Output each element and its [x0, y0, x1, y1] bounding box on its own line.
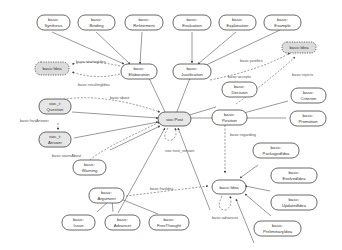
svg-text:Promotion: Promotion	[298, 119, 318, 124]
svg-text:basic:: basic:	[73, 217, 84, 222]
svg-text:Warning: Warning	[82, 168, 98, 173]
svg-text:basic:Idea: basic:Idea	[219, 185, 239, 190]
svg-text:basic:: basic:	[272, 223, 283, 228]
svg-text:basic:: basic:	[289, 197, 300, 202]
svg-text:PackagedIdea: PackagedIdea	[263, 151, 290, 156]
node-example: basic: Example	[264, 15, 301, 30]
node-post: sioc:Post	[158, 112, 191, 126]
node-answer: sioc_t: Answer	[39, 132, 71, 147]
node-idea-bottom: basic:Idea	[212, 180, 246, 194]
svg-text:Criterion: Criterion	[301, 96, 317, 101]
svg-text:basic:: basic:	[48, 17, 59, 22]
svg-text:basic:: basic:	[187, 17, 198, 22]
label-accepts: basic:accepts	[228, 75, 251, 79]
label-justifies: basic:justifies	[240, 59, 263, 63]
node-advancer: basic: Advancer	[105, 215, 140, 230]
svg-text:Refinement: Refinement	[133, 23, 155, 28]
svg-text:basic:: basic:	[303, 113, 314, 118]
svg-text:Issue: Issue	[73, 223, 84, 228]
svg-text:Evaluation: Evaluation	[182, 23, 202, 28]
node-issue: basic: Issue	[62, 215, 95, 230]
node-explanation: basic: Explanation	[219, 15, 256, 30]
svg-text:basic:Idea: basic:Idea	[42, 66, 62, 71]
node-argument: basic: Argument	[89, 188, 124, 203]
label-nextversion: sioc:next_version	[165, 149, 194, 153]
svg-text:basic:: basic:	[271, 145, 282, 150]
nodes: basic: Synthesis basic: Binding basic: R…	[35, 15, 326, 236]
node-warning: basic: Warning	[73, 160, 106, 175]
svg-text:sioc:Post: sioc:Post	[166, 117, 184, 122]
ontology-diagram: basic:startingIdea basic:resultingIdea b…	[0, 0, 342, 250]
node-question: sioc_t: Question	[39, 99, 71, 114]
svg-text:Binding: Binding	[90, 23, 105, 28]
label-advances: basic:advances	[212, 216, 238, 220]
svg-text:basic:: basic:	[117, 217, 128, 222]
svg-text:sioc_t:: sioc_t:	[49, 101, 61, 106]
label-resulting: basic:resultingIdea	[78, 83, 111, 87]
node-binding: basic: Binding	[78, 15, 115, 30]
svg-text:basic:: basic:	[277, 17, 288, 22]
label-regarding: basic:regarding	[230, 133, 256, 137]
label-starting: basic:startingIdea	[76, 60, 107, 64]
svg-text:basic:: basic:	[224, 112, 235, 117]
svg-text:FreeThought: FreeThought	[157, 223, 182, 228]
svg-text:basic:Idea: basic:Idea	[289, 45, 309, 50]
svg-text:Decision: Decision	[231, 90, 248, 95]
label-hasanswer: basic:hasAnswer	[20, 119, 49, 123]
svg-text:basic:: basic:	[303, 90, 314, 95]
svg-text:Position: Position	[222, 118, 238, 123]
svg-text:PreliminaryIdea: PreliminaryIdea	[263, 229, 293, 234]
node-idea-left: basic:Idea	[35, 62, 69, 75]
svg-text:Question: Question	[47, 107, 64, 112]
node-promotion: basic: Promotion	[290, 111, 326, 126]
svg-text:Answer: Answer	[48, 140, 63, 145]
node-criterion: basic: Criterion	[291, 88, 326, 103]
node-freethought: basic: FreeThought	[149, 215, 189, 230]
label-about: basic:about	[110, 96, 130, 100]
label-rejects: basic:rejects	[292, 73, 313, 77]
svg-text:Elaboration: Elaboration	[128, 72, 150, 77]
node-idea-top-right: basic:Idea	[282, 42, 316, 53]
svg-text:basic:: basic:	[134, 66, 145, 71]
svg-text:basic:: basic:	[91, 17, 102, 22]
node-elaboration: basic: Elaboration	[121, 64, 157, 79]
node-synthesis: basic: Synthesis	[37, 15, 70, 30]
svg-text:basic:: basic:	[84, 162, 95, 167]
svg-text:basic:: basic:	[101, 190, 112, 195]
svg-text:basic:: basic:	[234, 84, 245, 89]
label-startsabout: basic:startsAbout	[52, 154, 82, 158]
svg-text:Justification: Justification	[181, 72, 204, 77]
svg-text:basic:: basic:	[164, 217, 175, 222]
node-evaluation: basic: Evaluation	[173, 15, 211, 30]
node-evolved: basic: EvolvedIdea	[271, 168, 317, 183]
node-preliminary: basic: PreliminaryIdea	[254, 221, 301, 236]
svg-text:Synthesis: Synthesis	[44, 23, 62, 28]
svg-text:basic:: basic:	[187, 66, 198, 71]
svg-text:basic:: basic:	[232, 17, 243, 22]
node-refinement: basic: Refinement	[125, 15, 163, 30]
svg-text:basic:: basic:	[289, 170, 300, 175]
svg-text:Argument: Argument	[97, 196, 116, 201]
svg-text:Example: Example	[274, 23, 291, 28]
node-position: basic: Position	[212, 110, 247, 125]
label-hasidea: basic:hasIdea	[150, 187, 174, 191]
node-updated: basic: UpdatedIdea	[271, 195, 317, 210]
svg-text:basic:: basic:	[139, 17, 150, 22]
svg-text:EvolvedIdea: EvolvedIdea	[282, 176, 306, 181]
svg-text:UpdatedIdea: UpdatedIdea	[282, 203, 307, 208]
node-justification: basic: Justification	[173, 64, 211, 79]
node-decision: basic: Decision	[222, 82, 257, 97]
node-packaged: basic: PackagedIdea	[253, 143, 299, 158]
svg-text:sioc_t:: sioc_t:	[49, 134, 61, 139]
svg-text:Explanation: Explanation	[227, 23, 250, 28]
svg-text:Advancer: Advancer	[114, 223, 132, 228]
